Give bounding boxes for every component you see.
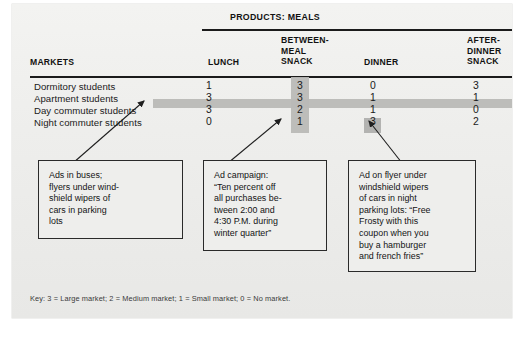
column-header-dinner: DINNER [364, 57, 398, 68]
market-product-grid: PRODUCTS: MEALS MARKETS LUNCH BETWEEN- M… [12, 4, 512, 134]
row-label-night-commuter-students: Night commuter students [34, 117, 142, 128]
cell-apartment-after-dinner-snack: 1 [469, 92, 483, 103]
cell-night-commuter-dinner: 3 [366, 116, 380, 127]
column-header-after-dinner-snack: AFTER- DINNER SNACK [467, 35, 501, 67]
column-header-between-meal-snack: BETWEEN- MEAL SNACK [281, 35, 329, 67]
cell-night-commuter-after-dinner-snack: 2 [469, 116, 483, 127]
cell-apartment-dinner: 1 [366, 92, 380, 103]
cell-day-commuter-lunch: 3 [202, 104, 216, 115]
cell-night-commuter-between-meal-snack: 1 [293, 116, 307, 127]
note-dinner-night-commuter: Ad on flyer under windshield wipers of c… [348, 160, 476, 272]
cell-dormitory-dinner: 0 [366, 80, 380, 91]
row-label-apartment-students: Apartment students [34, 93, 118, 104]
cell-day-commuter-after-dinner-snack: 0 [469, 104, 483, 115]
note-lunch-day-commuter: Ads in buses; flyers under wind- shield … [38, 160, 183, 239]
cell-dormitory-between-meal-snack: 3 [293, 80, 307, 91]
cell-day-commuter-between-meal-snack: 2 [293, 104, 307, 115]
row-label-day-commuter-students: Day commuter students [34, 105, 136, 116]
cell-day-commuter-dinner: 1 [366, 104, 380, 115]
products-meals-title: PRODUCTS: MEALS [230, 12, 320, 22]
row-label-dormitory-students: Dormitory students [34, 81, 115, 92]
cell-dormitory-lunch: 1 [202, 80, 216, 91]
header-rule [30, 76, 512, 78]
cell-dormitory-after-dinner-snack: 3 [469, 80, 483, 91]
cell-apartment-between-meal-snack: 3 [293, 92, 307, 103]
note-between-meal-snack-campaign: Ad campaign: “Ten percent off all purcha… [203, 160, 327, 251]
cell-apartment-lunch: 3 [202, 92, 216, 103]
cell-night-commuter-lunch: 0 [202, 116, 216, 127]
column-header-lunch: LUNCH [208, 57, 239, 68]
key-legend: Key: 3 = Large market; 2 = Medium market… [30, 294, 290, 303]
markets-header: MARKETS [30, 57, 74, 68]
products-rule [202, 29, 512, 31]
